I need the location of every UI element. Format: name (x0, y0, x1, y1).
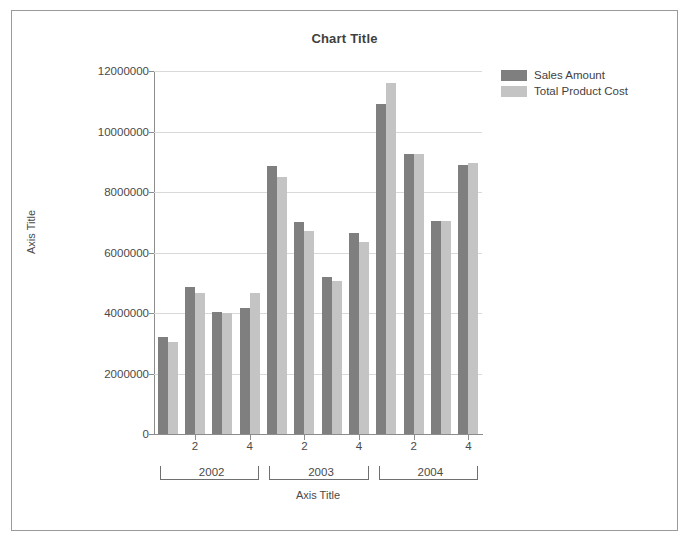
bar-group (458, 71, 478, 434)
bar-group (349, 71, 369, 434)
legend-label: Total Product Cost (534, 85, 628, 97)
y-axis-tick-mark (149, 374, 154, 375)
year-group-label: 2004 (397, 466, 463, 478)
x-axis-tick-label: 2 (180, 440, 210, 452)
bar-total-product-cost[interactable] (468, 163, 478, 434)
bar-group (240, 71, 260, 434)
bar-total-product-cost[interactable] (222, 313, 232, 434)
bar-total-product-cost[interactable] (250, 293, 260, 434)
legend-label: Sales Amount (534, 69, 605, 81)
bar-total-product-cost[interactable] (359, 242, 369, 434)
bar-sales-amount[interactable] (376, 104, 386, 434)
y-axis-tick-mark (149, 434, 154, 435)
x-axis-tick-label: 4 (453, 440, 483, 452)
legend-swatch-icon (501, 70, 527, 81)
y-axis-tick-label: 12000000 (59, 65, 149, 77)
bar-sales-amount[interactable] (240, 308, 250, 434)
year-group-label: 2003 (288, 466, 354, 478)
y-axis-tick-label: 2000000 (59, 368, 149, 380)
chart-title: Chart Title (12, 31, 677, 46)
bar-sales-amount[interactable] (431, 221, 441, 434)
bar-group (294, 71, 314, 434)
y-axis-tick-mark (149, 192, 154, 193)
bar-group (158, 71, 178, 434)
x-axis-tick-label: 4 (344, 440, 374, 452)
x-axis-line (154, 434, 483, 435)
legend-swatch-icon (501, 86, 527, 97)
x-axis-tick-label: 2 (289, 440, 319, 452)
bar-sales-amount[interactable] (294, 222, 304, 434)
y-axis-title: Axis Title (25, 210, 37, 254)
bar-total-product-cost[interactable] (195, 293, 205, 434)
bar-total-product-cost[interactable] (441, 221, 451, 434)
y-axis-tick-label: 8000000 (59, 186, 149, 198)
legend-item[interactable]: Total Product Cost (501, 85, 628, 97)
bar-sales-amount[interactable] (458, 165, 468, 434)
bar-total-product-cost[interactable] (277, 177, 287, 434)
y-axis-tick-label: 0 (59, 428, 149, 440)
plot-area (154, 71, 482, 434)
x-axis-tick-label: 4 (235, 440, 265, 452)
bar-total-product-cost[interactable] (414, 154, 424, 434)
y-axis-tick-mark (149, 71, 154, 72)
chart-frame: Chart Title Axis Title 02000000400000060… (11, 10, 678, 531)
bar-sales-amount[interactable] (322, 277, 332, 434)
y-axis-tick-mark (149, 253, 154, 254)
bar-sales-amount[interactable] (349, 233, 359, 434)
x-axis-title: Axis Title (154, 489, 482, 501)
y-axis-tick-labels: 0200000040000006000000800000010000000120… (54, 71, 149, 434)
x-axis-tick-label: 2 (399, 440, 429, 452)
bar-sales-amount[interactable] (267, 166, 277, 434)
bar-group (185, 71, 205, 434)
bar-total-product-cost[interactable] (168, 342, 178, 434)
bar-group (404, 71, 424, 434)
legend-item[interactable]: Sales Amount (501, 69, 628, 81)
y-axis-tick-mark (149, 313, 154, 314)
bar-total-product-cost[interactable] (304, 231, 314, 434)
legend: Sales AmountTotal Product Cost (501, 69, 628, 101)
bar-sales-amount[interactable] (185, 287, 195, 434)
y-axis-tick-label: 10000000 (59, 126, 149, 138)
bar-group (431, 71, 451, 434)
bar-sales-amount[interactable] (158, 337, 168, 434)
bar-sales-amount[interactable] (212, 312, 222, 435)
year-group-label: 2002 (179, 466, 245, 478)
y-axis-tick-label: 4000000 (59, 307, 149, 319)
y-axis-tick-mark (149, 132, 154, 133)
bar-sales-amount[interactable] (404, 154, 414, 434)
bar-group (322, 71, 342, 434)
y-axis-tick-label: 6000000 (59, 247, 149, 259)
bar-group (267, 71, 287, 434)
bar-group (376, 71, 396, 434)
bar-total-product-cost[interactable] (332, 281, 342, 434)
bar-group (212, 71, 232, 434)
bar-total-product-cost[interactable] (386, 83, 396, 434)
